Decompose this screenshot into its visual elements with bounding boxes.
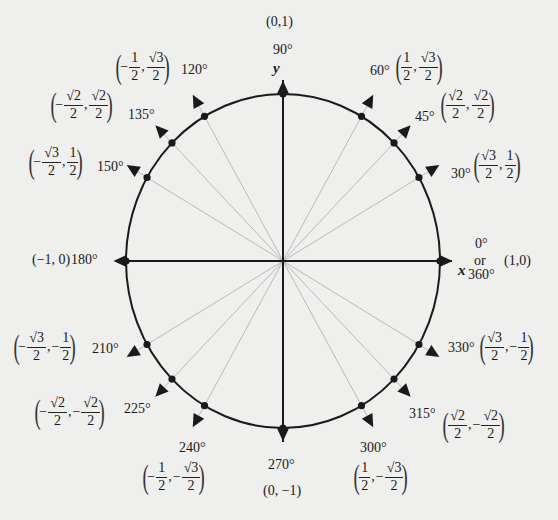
coordinate-label-240: ( − 12 , − √32 ) bbox=[144, 460, 204, 494]
x-numerator: √2 bbox=[64, 89, 83, 106]
point-30 bbox=[415, 174, 422, 181]
y-denominator: 2 bbox=[507, 166, 514, 182]
arrowhead-240-icon bbox=[193, 413, 204, 427]
left-paren: ( bbox=[116, 50, 122, 84]
arrowhead-30-icon bbox=[425, 165, 439, 177]
coordinate-label-225: ( − √22 , − √22 ) bbox=[36, 395, 103, 429]
y-denominator: 2 bbox=[95, 106, 102, 122]
comma: , bbox=[499, 157, 503, 173]
label-180-coord: (−1, 0) bbox=[32, 253, 70, 267]
label-0-coord: (1,0) bbox=[504, 254, 531, 268]
x-numerator: 1 bbox=[401, 51, 412, 68]
comma: , bbox=[371, 469, 375, 485]
left-paren: ( bbox=[396, 50, 402, 84]
left-paren: ( bbox=[14, 330, 20, 364]
left-paren: ( bbox=[29, 145, 35, 179]
x-fraction: 12 bbox=[129, 51, 140, 83]
y-numerator: √2 bbox=[472, 89, 491, 106]
left-paren: ( bbox=[354, 460, 360, 494]
ray-45 bbox=[283, 128, 408, 261]
x-denominator: 2 bbox=[158, 478, 165, 494]
label-180-degree: 180° bbox=[71, 253, 98, 267]
x-numerator: √3 bbox=[27, 331, 46, 348]
y-denominator: 2 bbox=[69, 163, 76, 179]
x-denominator: 2 bbox=[491, 348, 498, 364]
x-fraction: 12 bbox=[156, 461, 167, 493]
right-paren: ) bbox=[402, 460, 408, 494]
right-paren: ) bbox=[489, 88, 495, 122]
x-numerator: √2 bbox=[446, 89, 465, 106]
right-paren: ) bbox=[107, 88, 113, 122]
left-paren: ( bbox=[143, 460, 149, 494]
coordinate-label-150: ( − √32 , 12 ) bbox=[30, 145, 82, 179]
y-denominator: 2 bbox=[391, 478, 398, 494]
left-paren: ( bbox=[35, 395, 41, 429]
arrowhead-210-icon bbox=[127, 345, 141, 357]
x-fraction: √22 bbox=[446, 89, 465, 121]
y-fraction: √22 bbox=[481, 409, 500, 441]
point-180 bbox=[122, 257, 129, 264]
y-numerator: √3 bbox=[419, 51, 438, 68]
right-paren: ) bbox=[99, 395, 105, 429]
x-denominator: 2 bbox=[54, 413, 61, 429]
point-150 bbox=[143, 174, 150, 181]
right-paren: ) bbox=[164, 50, 170, 84]
arrowhead-300-icon bbox=[362, 413, 373, 427]
x-fraction: √22 bbox=[64, 89, 83, 121]
arrowhead-120-icon bbox=[193, 95, 204, 109]
label-0-360-degree: 360° bbox=[468, 268, 495, 282]
arrowhead-330-icon bbox=[425, 345, 439, 357]
x-axis-label: x bbox=[458, 262, 466, 279]
label-120-degree: 120° bbox=[181, 63, 208, 77]
x-denominator: 2 bbox=[361, 478, 368, 494]
x-numerator: √3 bbox=[479, 149, 498, 166]
ray-300 bbox=[283, 261, 372, 424]
point-315 bbox=[390, 375, 397, 382]
y-denominator: 2 bbox=[425, 68, 432, 84]
label-330-degree: 330° bbox=[448, 341, 475, 355]
point-330 bbox=[415, 341, 422, 348]
ray-315 bbox=[283, 261, 408, 394]
right-paren: ) bbox=[77, 145, 83, 179]
label-225-degree: 225° bbox=[124, 402, 151, 416]
left-paren: ( bbox=[51, 88, 57, 122]
point-210 bbox=[143, 341, 150, 348]
label-30-degree: 30° bbox=[451, 167, 471, 181]
y-numerator: √3 bbox=[182, 461, 201, 478]
ray-210 bbox=[129, 261, 283, 355]
y-denominator: 2 bbox=[153, 68, 160, 84]
comma: , bbox=[68, 404, 72, 420]
y-fraction: √22 bbox=[89, 89, 108, 121]
coordinate-label-210: ( − √32 , − 12 ) bbox=[15, 330, 75, 364]
ray-330 bbox=[283, 261, 437, 355]
y-fraction: √32 bbox=[419, 51, 438, 83]
x-numerator: 1 bbox=[129, 51, 140, 68]
coordinate-label-315: ( √22 , − √22 ) bbox=[444, 408, 503, 442]
label-240-degree: 240° bbox=[179, 441, 206, 455]
point-240 bbox=[201, 402, 208, 409]
x-numerator: 1 bbox=[156, 461, 167, 478]
x-fraction: √32 bbox=[479, 149, 498, 181]
x-denominator: 2 bbox=[454, 426, 461, 442]
coordinate-label-135: ( − √22 , √22 ) bbox=[52, 88, 111, 122]
coordinate-label-120: ( − 12 , √32 ) bbox=[117, 50, 169, 84]
label-300-degree: 300° bbox=[360, 441, 387, 455]
y-denominator: 2 bbox=[477, 106, 484, 122]
coordinate-label-60: ( 12 , √32 ) bbox=[397, 50, 441, 84]
left-paren: ( bbox=[474, 148, 480, 182]
x-fraction: √32 bbox=[27, 331, 46, 363]
x-denominator: 2 bbox=[33, 348, 40, 364]
point-0 bbox=[436, 257, 443, 264]
y-sign: − bbox=[376, 469, 384, 485]
right-paren: ) bbox=[528, 330, 534, 364]
label-90-coord: (0,1) bbox=[266, 15, 293, 29]
label-150-degree: 150° bbox=[97, 160, 124, 174]
label-210-degree: 210° bbox=[92, 342, 119, 356]
x-fraction: √22 bbox=[448, 409, 467, 441]
x-denominator: 2 bbox=[48, 163, 55, 179]
y-numerator: √2 bbox=[481, 409, 500, 426]
y-sign: − bbox=[72, 404, 80, 420]
arrowhead-60-icon bbox=[362, 95, 373, 109]
label-0-degree: 0° bbox=[475, 237, 488, 251]
label-315-degree: 315° bbox=[409, 407, 436, 421]
